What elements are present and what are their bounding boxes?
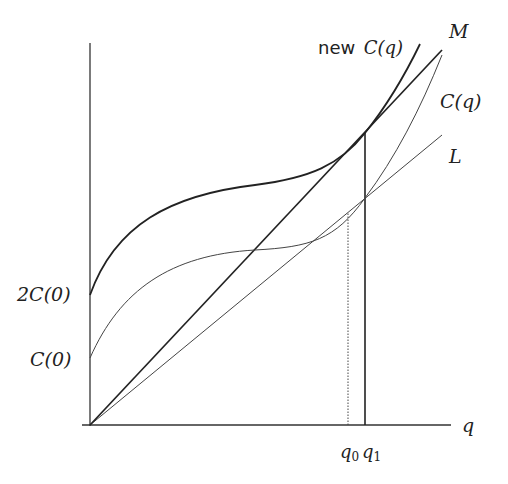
y-intercept-c0-label: C(0) — [30, 348, 71, 370]
line-M-label: M — [448, 20, 469, 42]
line-L — [90, 135, 442, 425]
line-L-label: L — [448, 145, 462, 167]
new-cost-curve — [90, 44, 420, 295]
line-M — [90, 50, 442, 425]
q0-label: q0 — [340, 441, 359, 464]
new-cost-label: new C(q) — [318, 37, 403, 58]
q1-label: q1 — [362, 441, 381, 464]
x-axis-label: q — [462, 414, 474, 436]
cost-diagram: new C(q) M C(q) L 2C(0) C(0) q q0 q1 — [0, 0, 508, 484]
y-intercept-2c0-label: 2C(0) — [16, 283, 71, 305]
cost-curve-label: C(q) — [440, 90, 482, 112]
